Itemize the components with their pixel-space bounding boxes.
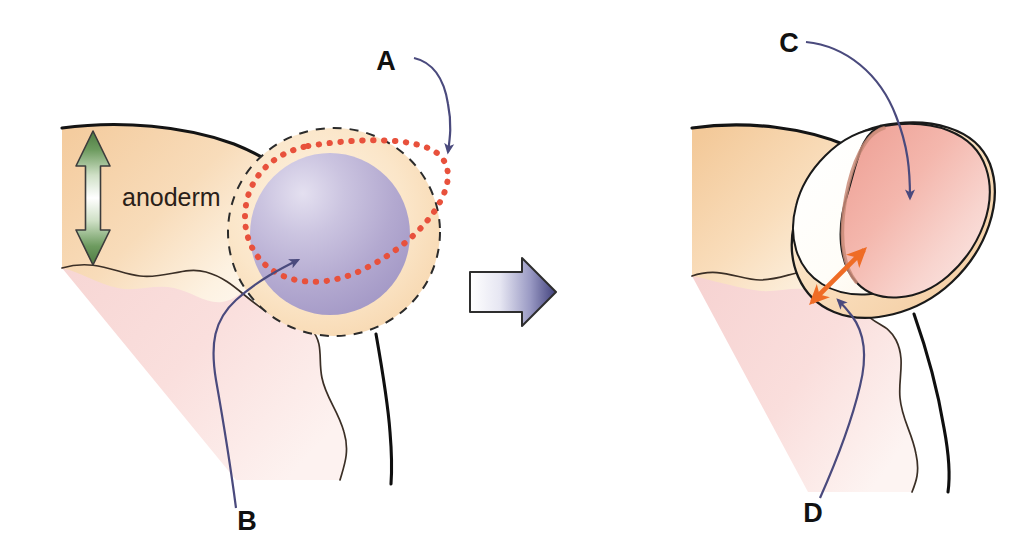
anal-verge-tail-left xyxy=(376,334,392,484)
callout-a-leader xyxy=(414,58,450,152)
figure-canvas: anoderm A B C xyxy=(0,0,1034,558)
callout-b-label: B xyxy=(237,506,257,536)
panel-right-postexcision: C D xyxy=(692,28,995,528)
callout-d-label: D xyxy=(803,498,823,528)
transition-arrow xyxy=(470,258,556,326)
hemorrhoid-cushion-left xyxy=(250,153,410,315)
anoderm-label: anoderm xyxy=(122,183,221,211)
anal-verge-tail-right xyxy=(914,314,949,492)
panel-left-preoperative: anoderm A B xyxy=(62,46,450,536)
anatomical-diagram-svg: anoderm A B C xyxy=(0,0,1034,558)
callout-a-label: A xyxy=(376,46,396,76)
callout-c-label: C xyxy=(779,28,799,58)
